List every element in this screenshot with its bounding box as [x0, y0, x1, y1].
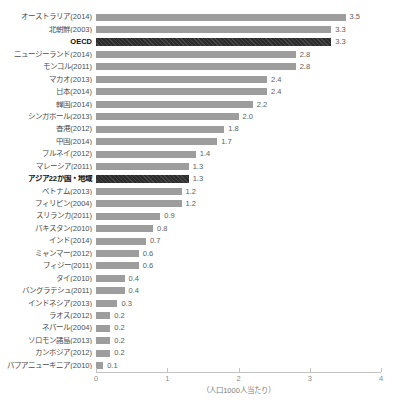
chart-row: スリランカ(2011)0.9 [0, 210, 398, 222]
x-tick-label: 0 [94, 375, 98, 383]
bar [96, 113, 239, 120]
bar [96, 126, 224, 133]
chart-row: カンボジア(2012)0.2 [0, 347, 398, 359]
category-label: パプアニューギニア(2010) [0, 362, 96, 370]
chart-row: フィジー(2011)0.6 [0, 260, 398, 272]
chart-row: ソロモン諸島(2013)0.2 [0, 334, 398, 346]
category-label: バングラデシュ(2011) [0, 287, 96, 295]
value-label: 0.2 [114, 312, 124, 320]
value-label: 0.4 [129, 287, 139, 295]
value-label: 1.4 [200, 150, 210, 158]
x-axis-tick [310, 368, 311, 372]
category-label: ニュージーランド(2014) [0, 51, 96, 59]
bar [96, 14, 346, 21]
value-label: 0.7 [150, 237, 160, 245]
value-label: 3.3 [335, 26, 345, 34]
bar [96, 200, 182, 207]
bar [96, 238, 146, 245]
chart-row: バングラデシュ(2011)0.4 [0, 285, 398, 297]
bar [96, 38, 331, 46]
x-tick-label: 3 [308, 375, 312, 383]
bar [96, 312, 110, 319]
bar [96, 287, 125, 294]
value-label: 2.4 [271, 76, 281, 84]
chart-row: オーストラリア(2014)3.5 [0, 11, 398, 23]
category-label: マレーシア(2011) [0, 163, 96, 171]
chart-row: 香港(2012)1.8 [0, 123, 398, 135]
x-axis-caption: （人口1000人当たり） [96, 387, 381, 395]
bar [96, 88, 267, 95]
category-label: インドネシア(2013) [0, 300, 96, 308]
category-label: マカオ(2013) [0, 76, 96, 84]
x-tick-label: 1 [165, 375, 169, 383]
value-label: 2.0 [243, 113, 253, 121]
category-label: モンゴル(2011) [0, 63, 96, 71]
chart-row: マレーシア(2011)1.3 [0, 160, 398, 172]
bar [96, 163, 189, 170]
category-label: アジア22か国・地域 [0, 175, 96, 183]
bar [96, 138, 217, 145]
category-label: フィリピン(2004) [0, 200, 96, 208]
bar-chart: オーストラリア(2014)3.5北朝鮮(2003)3.3OECD3.3ニュージー… [0, 0, 398, 402]
x-tick-label: 4 [379, 375, 383, 383]
x-tick-label: 2 [237, 375, 241, 383]
value-label: 3.3 [335, 38, 345, 46]
x-axis-tick [381, 368, 382, 372]
bar [96, 337, 110, 344]
bar [96, 250, 139, 257]
bar [96, 350, 110, 357]
value-label: 0.6 [143, 250, 153, 258]
category-label: ブルネイ(2012) [0, 150, 96, 158]
value-label: 0.2 [114, 324, 124, 332]
category-label: 北朝鮮(2003) [0, 26, 96, 34]
bar [96, 325, 110, 332]
value-label: 0.6 [143, 262, 153, 270]
chart-row: インドネシア(2013)0.3 [0, 297, 398, 309]
chart-row: モンゴル(2011)2.8 [0, 61, 398, 73]
chart-row: 韓国(2014)2.2 [0, 98, 398, 110]
category-label: 中国(2014) [0, 138, 96, 146]
chart-row: ベトナム(2013)1.2 [0, 185, 398, 197]
category-label: ソロモン諸島(2013) [0, 337, 96, 345]
chart-row: ミャンマー(2012)0.6 [0, 247, 398, 259]
chart-row: ニュージーランド(2014)2.8 [0, 48, 398, 60]
bar [96, 213, 160, 220]
bar [96, 188, 182, 195]
category-label: 韓国(2014) [0, 101, 96, 109]
category-label: ミャンマー(2012) [0, 250, 96, 258]
chart-row: OECD3.3 [0, 36, 398, 48]
bar [96, 51, 296, 58]
x-axis-tick [167, 368, 168, 372]
chart-row: タイ(2010)0.4 [0, 272, 398, 284]
chart-row: パキスタン(2010)0.8 [0, 222, 398, 234]
chart-row: 中国(2014)1.7 [0, 135, 398, 147]
category-label: パキスタン(2010) [0, 225, 96, 233]
value-label: 1.2 [186, 188, 196, 196]
x-axis-tick [239, 368, 240, 372]
chart-row: 日本(2014)2.4 [0, 86, 398, 98]
category-label: ネパール(2004) [0, 324, 96, 332]
chart-row: アジア22か国・地域1.3 [0, 173, 398, 185]
category-label: ラオス(2012) [0, 312, 96, 320]
category-label: タイ(2010) [0, 275, 96, 283]
category-label: カンボジア(2012) [0, 349, 96, 357]
value-label: 2.2 [257, 101, 267, 109]
bar [96, 262, 139, 269]
bar [96, 101, 253, 108]
bar [96, 275, 125, 282]
category-label: ベトナム(2013) [0, 188, 96, 196]
value-label: 1.2 [186, 200, 196, 208]
value-label: 2.8 [300, 51, 310, 59]
chart-row: マカオ(2013)2.4 [0, 73, 398, 85]
value-label: 0.4 [129, 275, 139, 283]
chart-row: ネパール(2004)0.2 [0, 322, 398, 334]
category-label: フィジー(2011) [0, 262, 96, 270]
bar [96, 300, 117, 307]
category-label: オーストラリア(2014) [0, 13, 96, 21]
value-label: 3.5 [350, 13, 360, 21]
bar [96, 151, 196, 158]
category-label: 日本(2014) [0, 88, 96, 96]
value-label: 0.8 [157, 225, 167, 233]
value-label: 1.3 [193, 175, 203, 183]
value-label: 0.2 [114, 349, 124, 357]
